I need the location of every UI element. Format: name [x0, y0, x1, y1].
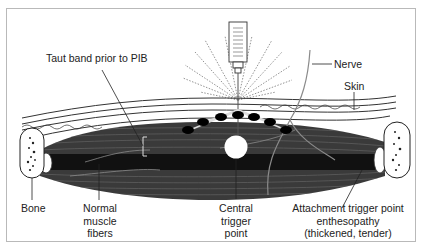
label-nerve: Nerve [334, 58, 362, 71]
label-bone: Bone [21, 202, 46, 215]
central-trigger-point-shape [225, 136, 248, 159]
right-bone [384, 122, 410, 178]
label-central-trigger-point: Central trigger point [219, 202, 253, 240]
label-attachment-trigger-point: Attachment trigger point enthesopathy (t… [292, 202, 403, 240]
label-skin: Skin [344, 80, 364, 93]
label-normal-muscle-fibers: Normal muscle fibers [83, 202, 117, 240]
label-taut-band: Taut band prior to PIB [46, 52, 148, 65]
left-bone [20, 128, 44, 178]
